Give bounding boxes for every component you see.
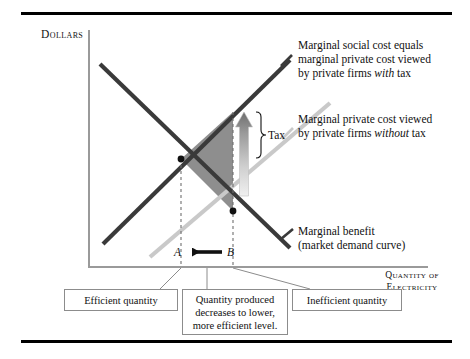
equilibrium-point-b bbox=[230, 208, 237, 215]
annotation-marginal-private-cost: Marginal private cost viewed by private … bbox=[298, 112, 432, 140]
tax-gap-label: Tax bbox=[268, 129, 285, 141]
annotation-msc-tail: tax bbox=[394, 67, 411, 79]
callout-inefficient-quantity: Inefficient quantity bbox=[292, 289, 402, 311]
annotation-msc-emphasis: with bbox=[374, 67, 394, 79]
callout-quantity-decrease: Quantity produced decreases to lower, mo… bbox=[182, 289, 288, 335]
callout-connector-efficient bbox=[160, 268, 181, 289]
economics-figure: Dollars Quantity of Electricity bbox=[0, 0, 470, 359]
leader-demand bbox=[281, 229, 293, 239]
annotation-marginal-social-cost: Marginal social cost equals marginal pri… bbox=[298, 38, 431, 81]
annotation-mpc-emphasis: without bbox=[374, 127, 409, 139]
point-label-b: B bbox=[227, 246, 234, 258]
equilibrium-point-a bbox=[178, 156, 185, 163]
callout-efficient-quantity: Efficient quantity bbox=[64, 289, 178, 311]
point-label-a: A bbox=[174, 246, 181, 258]
tax-brace-icon bbox=[256, 112, 266, 158]
annotation-marginal-benefit: Marginal benefit (market demand curve) bbox=[298, 224, 405, 252]
callout-connector-inefficient bbox=[233, 268, 310, 289]
annotation-mpc-tail: tax bbox=[409, 127, 426, 139]
